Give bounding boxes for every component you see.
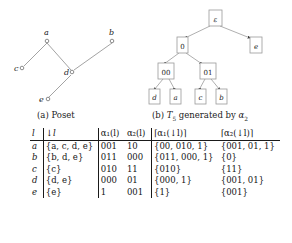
- cell-ceil-alpha1: {011, 000, 1}: [152, 152, 219, 164]
- cell-alpha1: 1: [98, 187, 125, 199]
- poset-edge-d-a: [47, 43, 71, 70]
- tree-edge-00-d: [154, 79, 163, 90]
- captions-row: (a) Poset (b) T5 generated by α2: [0, 110, 292, 126]
- poset-edge-d-b: [74, 43, 112, 70]
- cell-l: e: [30, 187, 43, 199]
- cell-ceil-alpha2: {001, 01}: [219, 175, 280, 187]
- cell-ceil-alpha1: {000, 1}: [152, 175, 219, 187]
- tree-edge-root-0: [185, 26, 210, 38]
- cell-l: c: [30, 164, 43, 176]
- poset-node-e-dot: [46, 97, 50, 101]
- cell-alpha2: 001: [125, 187, 152, 199]
- tree-edge-00-a: [169, 79, 175, 90]
- poset-edge-c-a: [24, 43, 47, 66]
- tree-label-c: c: [199, 94, 203, 102]
- caption-tree: (b) T5 generated by α2: [152, 110, 248, 122]
- table-row: a {a, c, d, e} 001 10 {00, 010, 1} {001,…: [30, 140, 280, 152]
- cell-alpha1: 010: [98, 164, 125, 176]
- table-row: e {e} 1 001 {1} {001}: [30, 187, 280, 199]
- tree-label-b: b: [219, 94, 224, 102]
- poset-edge-e-d: [48, 75, 71, 98]
- poset-node-a-dot: [45, 39, 49, 43]
- poset-label-b: b: [109, 28, 114, 37]
- header-ceil-alpha2: ⌈α₂(↓l)⌉: [219, 128, 280, 140]
- poset-diagram: a b c d e: [0, 0, 146, 110]
- tree-label-d: d: [152, 94, 157, 102]
- tree-edge-0-00: [164, 53, 179, 64]
- cell-alpha2: 01: [125, 175, 152, 187]
- tree-svg: ε 0 e 00 01 d a c b: [146, 0, 292, 110]
- cell-alpha1: 000: [98, 175, 125, 187]
- cell-down-l: {c}: [43, 164, 98, 176]
- tree-edges: [154, 26, 250, 90]
- cell-alpha1: 011: [98, 152, 125, 164]
- cell-alpha1: 001: [98, 140, 125, 152]
- tree-label-a: a: [173, 94, 177, 102]
- poset-label-e: e: [39, 95, 44, 104]
- cell-ceil-alpha1: {1}: [152, 187, 219, 199]
- cell-l: b: [30, 152, 43, 164]
- cell-ceil-alpha2: {0}: [219, 152, 280, 164]
- figure-page: a b c d e: [0, 0, 292, 243]
- poset-node-b-dot: [110, 39, 114, 43]
- cell-l: a: [30, 140, 43, 152]
- cell-ceil-alpha1: {00, 010, 1}: [152, 140, 219, 152]
- cell-ceil-alpha2: {11}: [219, 164, 280, 176]
- poset-label-a: a: [44, 28, 49, 37]
- tree-node-boxes: [149, 10, 262, 104]
- tree-edge-root-e: [220, 26, 250, 38]
- tree-diagram: ε 0 e 00 01 d a c b: [146, 0, 292, 110]
- cell-ceil-alpha1: {010}: [152, 164, 219, 176]
- cell-down-l: {b, d, e}: [43, 152, 98, 164]
- header-l: l: [30, 128, 43, 140]
- cell-ceil-alpha2: {001, 01, 1}: [219, 140, 280, 152]
- cell-down-l: {a, c, d, e}: [43, 140, 98, 152]
- tree-label-root: ε: [214, 16, 218, 24]
- poset-node-d-dot: [70, 70, 74, 74]
- data-table-wrap: l ↓l α₁(l) α₂(l) ⌈α₁(↓l)⌉ ⌈α₂(↓l)⌉ a {a,…: [30, 128, 280, 198]
- cell-down-l: {d, e}: [43, 175, 98, 187]
- cell-ceil-alpha2: {001}: [219, 187, 280, 199]
- cell-down-l: {e}: [43, 187, 98, 199]
- cell-alpha2: 000: [125, 152, 152, 164]
- cell-alpha2: 10: [125, 140, 152, 152]
- table-row: b {b, d, e} 011 000 {011, 000, 1} {0}: [30, 152, 280, 164]
- tree-edge-01-b: [211, 79, 220, 90]
- data-table: l ↓l α₁(l) α₂(l) ⌈α₁(↓l)⌉ ⌈α₂(↓l)⌉ a {a,…: [30, 128, 280, 198]
- table-header-row: l ↓l α₁(l) α₂(l) ⌈α₁(↓l)⌉ ⌈α₂(↓l)⌉: [30, 128, 280, 140]
- cell-l: d: [30, 175, 43, 187]
- figures-row: a b c d e: [0, 0, 292, 110]
- tree-label-01: 01: [204, 69, 213, 77]
- table-row: c {c} 010 11 {010} {11}: [30, 164, 280, 176]
- caption-poset: (a) Poset: [37, 110, 75, 120]
- poset-node-labels: a b c d e: [14, 28, 114, 104]
- header-alpha2: α₂(l): [125, 128, 152, 140]
- table-row: d {d, e} 000 01 {000, 1} {001, 01}: [30, 175, 280, 187]
- poset-label-c: c: [14, 64, 19, 73]
- tree-edge-01-c: [199, 79, 205, 90]
- tree-edge-0-01: [186, 53, 202, 64]
- cell-alpha2: 11: [125, 164, 152, 176]
- poset-node-c-dot: [20, 66, 24, 70]
- header-down-l: ↓l: [43, 128, 98, 140]
- header-alpha1: α₁(l): [98, 128, 125, 140]
- caption-tree-alpha-sub: 2: [244, 116, 248, 122]
- tree-label-e: e: [254, 43, 258, 51]
- caption-tree-sub: 5: [172, 116, 176, 122]
- caption-tree-mid: generated by: [179, 110, 236, 120]
- poset-svg: a b c d e: [0, 0, 146, 110]
- caption-tree-prefix: (b): [152, 110, 164, 120]
- header-ceil-alpha1: ⌈α₁(↓l)⌉: [152, 128, 219, 140]
- tree-label-0: 0: [180, 43, 184, 51]
- tree-label-00: 00: [162, 69, 171, 77]
- poset-label-d: d: [64, 68, 69, 77]
